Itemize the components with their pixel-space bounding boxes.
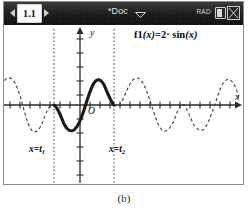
- graph-work-area[interactable]: [4, 25, 243, 185]
- vline-label-t2-prefix: x=t: [109, 144, 122, 154]
- vline-label-t2: x=t2: [109, 144, 125, 154]
- x-axis-label: x: [235, 91, 239, 102]
- figure-caption: (b): [0, 192, 248, 204]
- vline-label-t2-sub: 2: [122, 148, 125, 155]
- arrow-right-icon[interactable]: [44, 9, 49, 17]
- chevron-down-icon[interactable]: [135, 12, 146, 18]
- page-tab[interactable]: 1.1: [17, 4, 42, 23]
- function-equals: =2· sin: [155, 29, 185, 40]
- graph-canvas: [4, 25, 244, 185]
- vline-label-t1-sub: 1: [42, 148, 45, 155]
- function-equation-label: f1(x)=2· sin(x): [134, 29, 197, 40]
- screenshot-root: 1.1 *Doc RAD: [0, 0, 248, 215]
- vline-label-t1-prefix: x=t: [29, 144, 42, 154]
- origin-label: O: [88, 106, 95, 116]
- y-axis-label: y: [90, 27, 94, 38]
- angle-mode-indicator: RAD: [196, 8, 211, 15]
- function-name: f1: [134, 29, 143, 40]
- document-name: *Doc: [108, 6, 128, 16]
- function-arg2: (x): [185, 29, 197, 40]
- calculator-screen: 1.1 *Doc RAD: [3, 1, 244, 185]
- title-bar: 1.1 *Doc RAD: [4, 2, 243, 25]
- close-icon[interactable]: [227, 6, 240, 20]
- vline-label-t1: x=t1: [29, 144, 45, 154]
- function-arg: (x): [143, 29, 155, 40]
- battery-icon: [215, 7, 226, 19]
- arrow-left-icon[interactable]: [10, 9, 15, 17]
